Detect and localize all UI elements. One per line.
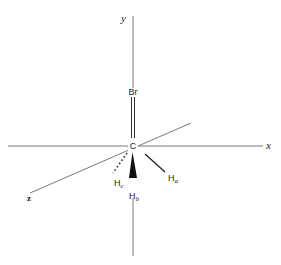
hb-wedge-bond [129,152,137,178]
hc-atom-label: Hc [114,178,125,190]
y-axis-label: y [120,12,126,24]
x-axis-label: x [265,139,271,151]
molecule-diagram: y x z Br C Hc Hb Ha [0,0,281,265]
ha-bond [145,154,165,172]
carbon-atom-label: C [130,141,137,151]
ha-atom-label: Ha [168,173,179,185]
hb-atom-label: Hb [129,191,140,203]
br-atom-label: Br [129,87,138,97]
z-axis [30,123,191,193]
z-axis-label: z [27,193,31,203]
